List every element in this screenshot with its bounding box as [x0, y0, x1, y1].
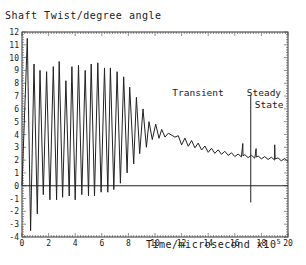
chart-plot: 02468101214161820-4-3-2-1012345678910111…	[0, 0, 306, 265]
axes	[22, 32, 288, 237]
y-tick-label: -1	[9, 195, 19, 204]
y-tick-label: 5	[14, 118, 19, 127]
y-tick-label: -4	[9, 233, 19, 242]
x-tick-label: 8	[126, 239, 131, 248]
shaft-twist-line	[22, 38, 288, 230]
y-tick-label: 10	[9, 54, 19, 63]
x-tick-label: 0	[20, 239, 25, 248]
y-tick-label: 6	[14, 105, 19, 114]
y-tick-label: -2	[9, 207, 19, 216]
y-tick-label: 4	[14, 131, 19, 140]
x-axis-label-exponent: 5	[276, 238, 281, 246]
x-axis-label: Time/microsecond x105	[146, 238, 281, 250]
axis-ticks	[22, 32, 288, 237]
x-tick-label: 20	[283, 239, 293, 248]
y-tick-label: 11	[9, 41, 19, 50]
y-tick-label: 0	[14, 182, 19, 191]
y-tick-label: 1	[14, 169, 19, 178]
annotation-transient: Transient	[172, 87, 223, 98]
x-tick-label: 6	[99, 239, 104, 248]
y-tick-label: 9	[14, 66, 19, 75]
y-tick-label: 8	[14, 79, 19, 88]
y-tick-label: -3	[9, 220, 19, 229]
y-tick-label: 3	[14, 143, 19, 152]
x-tick-label: 4	[73, 239, 78, 248]
plot-frame	[22, 32, 288, 237]
annotation-steady: Steady	[247, 87, 282, 98]
x-axis-label-text: Time/microsecond x10	[146, 239, 276, 250]
x-tick-label: 2	[46, 239, 51, 248]
y-tick-label: 7	[14, 92, 19, 101]
annotation-state: State	[255, 99, 284, 110]
y-tick-label: 2	[14, 156, 19, 165]
y-tick-label: 12	[9, 28, 19, 37]
